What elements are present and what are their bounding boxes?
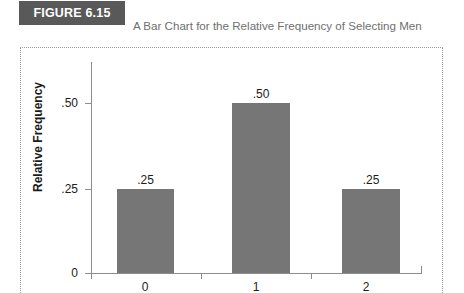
figure-header: FIGURE 6.15 A Bar Chart for the Relative… <box>0 0 464 40</box>
figure-number-badge: FIGURE 6.15 <box>19 1 125 25</box>
figure-caption-line-1: A Bar Chart for the Relative Frequency o… <box>133 19 422 32</box>
chart-dotted-frame <box>20 47 443 293</box>
